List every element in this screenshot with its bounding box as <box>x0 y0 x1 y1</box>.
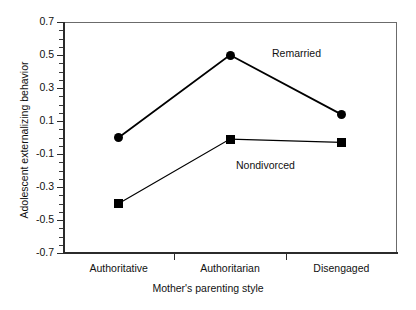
series-label-remarried: Remarried <box>272 47 321 59</box>
chart-figure: 0.70.50.30.1-0.1-0.3-0.5-0.7 Adolescent … <box>0 0 416 310</box>
series-line-remarried <box>119 55 342 138</box>
series-label-nondivorced: Nondivorced <box>236 159 295 171</box>
series-line-nondivorced <box>119 139 342 203</box>
series-lines <box>0 0 416 310</box>
